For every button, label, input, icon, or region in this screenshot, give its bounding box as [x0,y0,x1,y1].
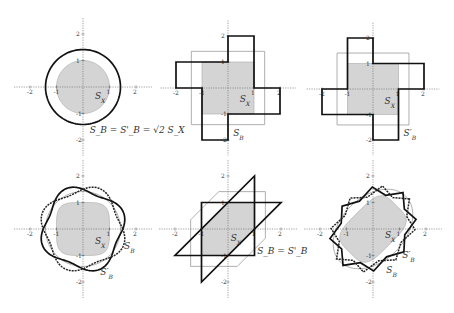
y-tick-label: -2 [76,136,82,143]
diagram-canvas: -2-2-1-11122SXS_B = S'_B = √2 S_X-2-2-1-… [0,0,454,313]
x-tick-label: 2 [133,88,137,95]
x-tick-label: 1 [251,89,255,96]
figure-root: -2-2-1-11122SXS_B = S'_B = √2 S_X-2-2-1-… [0,0,454,313]
x-tick-label: 2 [133,230,137,237]
x-tick-label: 1 [107,230,111,237]
panel-wavy: -2-2-1-11122SXSBS′B [14,160,152,298]
x-tick-label: -2 [172,230,178,237]
sbprime-label: S′B [404,128,417,141]
x-tick-label: -1 [345,90,351,97]
y-tick-label: -1 [76,110,82,117]
y-tick-label: -2 [221,278,227,285]
y-tick-label: 1 [366,60,370,67]
y-tick-label: 2 [221,172,225,179]
x-tick-label: -1 [54,88,60,95]
x-tick-label: 1 [397,230,401,237]
y-tick-label: -1 [366,252,372,259]
x-tick-label: -1 [54,230,60,237]
y-tick-label: 2 [221,32,225,39]
x-tick-label: 2 [421,90,425,97]
x-tick-label: -2 [27,88,33,95]
x-tick-label: 2 [278,230,282,237]
y-tick-label: -1 [76,252,82,259]
x-tick-label: 2 [423,230,427,237]
sbprime-label: S′B [100,267,113,280]
x-tick-label: -2 [27,230,33,237]
y-tick-label: 1 [76,57,80,64]
y-tick-label: -1 [221,110,227,117]
sb-label: SB [386,265,397,278]
panel-pinwheel-sbprime: -2-2-1-11122SXS′B [307,23,440,156]
y-tick-label: -2 [366,278,372,285]
panel-triangles: -2-2-1-11122SXS_B = S'_B [159,160,308,298]
panel-circle: -2-2-1-11122SXS_B = S'_B = √2 S_X [14,18,185,156]
x-tick-label: -2 [173,89,179,96]
x-tick-label: -2 [317,230,323,237]
x-tick-label: -1 [344,230,350,237]
y-tick-label: 2 [76,172,80,179]
y-tick-label: 1 [366,199,370,206]
y-tick-label: 2 [76,30,80,37]
y-tick-label: -2 [366,136,372,143]
sb-equation-label: S_B = S'_B = √2 S_X [90,125,186,136]
y-tick-label: 2 [366,172,370,179]
y-tick-label: 1 [76,199,80,206]
y-tick-label: -2 [76,278,82,285]
sb-equation-label: S_B = S'_B [257,246,308,257]
x-tick-label: 1 [107,88,111,95]
sb-label: SB [124,241,135,254]
sb-label: SB [233,128,244,141]
sbprime-label: S′B [402,250,415,263]
panel-rotated: -2-2-1-11122SXS′BSB [304,160,442,298]
